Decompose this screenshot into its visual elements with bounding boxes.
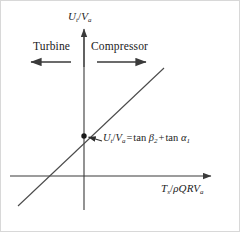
x-axis-denominator-sub: a	[200, 188, 204, 196]
equation-lhs-denominator-sub: a	[122, 137, 126, 145]
y-axis-numerator-sub: t	[76, 16, 78, 24]
plot-canvas	[0, 0, 241, 233]
y-intercept-marker	[81, 133, 86, 138]
equation-annotation: Ut/Va=tan β2+tan α1	[103, 133, 190, 144]
equation-term2-fn: tan	[165, 132, 178, 143]
equation-term1-fn: tan	[133, 132, 146, 143]
x-axis-denominator: ρQRV	[173, 182, 200, 194]
equation-term1-sub: 2	[154, 137, 158, 145]
y-axis-title: Ut/Va	[68, 11, 92, 22]
equation-term2-sub: 1	[186, 137, 190, 145]
annotation-leader-arrow	[89, 137, 103, 141]
y-axis-denominator-sub: a	[88, 16, 92, 24]
equation-lhs-denominator: V	[115, 132, 121, 143]
figure-root: Ut/Va Ts/ρQRVa Turbine Compressor Ut/Va=…	[0, 0, 241, 233]
x-axis-numerator-sub: s	[167, 188, 170, 196]
y-axis-numerator: U	[68, 10, 76, 22]
equation-lhs-numerator: U	[103, 132, 111, 143]
x-axis-title: Ts/ρQRVa	[161, 183, 204, 194]
region-label-turbine: Turbine	[33, 41, 70, 53]
region-label-compressor: Compressor	[91, 41, 148, 53]
equation-lhs-numerator-sub: t	[111, 137, 113, 145]
